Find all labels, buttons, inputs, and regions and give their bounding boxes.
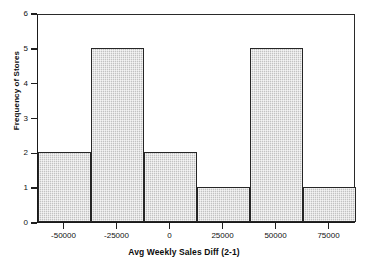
x-axis-tick [328, 223, 329, 229]
plot-area [37, 14, 355, 223]
histogram-bar [38, 152, 91, 222]
x-axis-tick-label: -25000 [87, 231, 147, 240]
x-axis-tick-label: 50000 [246, 231, 306, 240]
histogram-bar [250, 48, 303, 222]
y-axis-tick-label: 6 [2, 10, 28, 18]
x-axis-tick [222, 223, 223, 229]
histogram-bar [144, 152, 197, 222]
y-axis-tick-label: 3 [2, 115, 28, 123]
x-axis-tick-label: 75000 [299, 231, 359, 240]
x-axis-tick [116, 223, 117, 229]
x-axis-tick [169, 223, 170, 229]
y-axis-tick-label: 2 [2, 149, 28, 157]
y-axis-tick-label: 5 [2, 45, 28, 53]
histogram-bar [91, 48, 144, 222]
histogram-chart: Frequency of Stores 0123456 -50000-25000… [0, 0, 368, 267]
histogram-bar [303, 187, 356, 222]
x-axis-tick-label: 0 [140, 231, 200, 240]
x-axis-tick [275, 223, 276, 229]
x-axis-tick-label: -50000 [34, 231, 94, 240]
histogram-bar [197, 187, 250, 222]
y-axis-tick-label: 1 [2, 184, 28, 192]
bars-layer [38, 15, 354, 222]
y-axis-tick-label: 4 [2, 80, 28, 88]
y-axis-tick-label: 0 [2, 219, 28, 227]
x-axis-title: Avg Weekly Sales Diff (2-1) [0, 247, 368, 257]
x-axis-tick [63, 223, 64, 229]
x-axis-tick-label: 25000 [193, 231, 253, 240]
